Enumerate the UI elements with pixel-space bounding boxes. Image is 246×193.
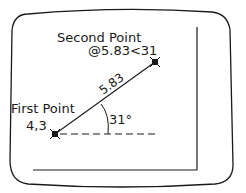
- vector-line: [55, 62, 155, 134]
- first-point-coords: 4,3: [26, 118, 47, 133]
- first-point-label: First Point: [11, 101, 75, 116]
- x-marker-icon: [150, 57, 160, 67]
- angle-arc: [101, 104, 108, 134]
- polar-coordinate-diagram: Second Point @5.83<31 First Point 4,3 5.…: [0, 0, 246, 193]
- second-point-coords: @5.83<31: [88, 43, 157, 58]
- x-marker-icon: [50, 129, 60, 139]
- angle-label: 31°: [109, 112, 132, 127]
